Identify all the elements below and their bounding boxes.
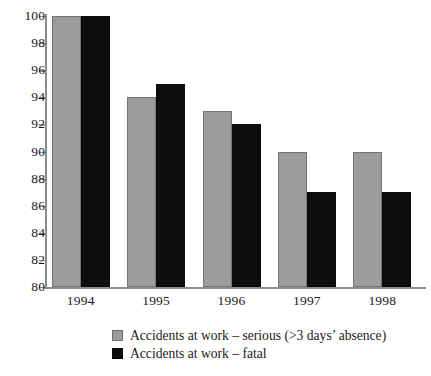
bar-group-1997 (278, 16, 336, 287)
bar-1998-fatal (382, 192, 411, 287)
y-axis-tick-label: 80 (9, 280, 45, 294)
bar-1996-fatal (232, 124, 261, 287)
y-axis-tick-label: 92 (9, 117, 45, 131)
legend-item-fatal: Accidents at work – fatal (112, 345, 412, 362)
legend-label-fatal: Accidents at work – fatal (130, 346, 267, 361)
bar-1995-fatal (156, 84, 185, 287)
bar-chart: 80828486889092949698100 1994199519961997… (0, 0, 431, 376)
y-axis-tick-label: 82 (9, 253, 45, 267)
x-axis-line (45, 287, 426, 289)
y-axis-tick-label: 88 (9, 172, 45, 186)
legend-item-serious: Accidents at work – serious (>3 days’ ab… (112, 327, 412, 344)
bar-1994-fatal (81, 16, 110, 287)
y-axis-tick-label: 98 (9, 36, 45, 50)
bar-1994-serious (52, 16, 81, 287)
bar-group-1995 (127, 16, 185, 287)
y-axis-tick-label: 86 (9, 199, 45, 213)
x-axis-label-1998: 1998 (338, 293, 426, 308)
legend-swatch-serious-icon (112, 330, 123, 341)
y-axis-tick-label: 84 (9, 226, 45, 240)
bar-group-1994 (52, 16, 110, 287)
bar-1996-serious (203, 111, 232, 287)
y-axis-tick-label: 96 (9, 63, 45, 77)
bar-1997-serious (278, 152, 307, 288)
y-axis-tick-label: 94 (9, 90, 45, 104)
bar-group-1998 (353, 16, 411, 287)
bar-1995-serious (127, 97, 156, 287)
bar-group-1996 (203, 16, 261, 287)
chart-legend: Accidents at work – serious (>3 days’ ab… (112, 327, 412, 363)
bar-1997-fatal (307, 192, 336, 287)
legend-label-serious: Accidents at work – serious (>3 days’ ab… (130, 328, 386, 343)
y-axis-tick-label: 90 (9, 145, 45, 159)
y-axis-line (45, 14, 47, 289)
bar-1998-serious (353, 152, 382, 288)
legend-swatch-fatal-icon (112, 348, 123, 359)
y-axis-tick-label: 100 (9, 9, 45, 23)
